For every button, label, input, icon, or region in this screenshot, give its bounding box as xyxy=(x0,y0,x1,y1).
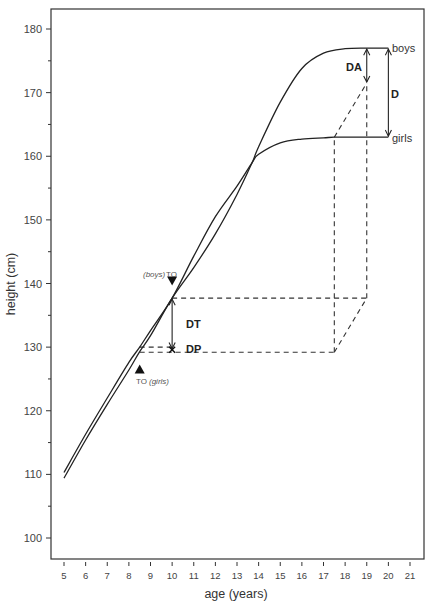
growth-chart: 100110120130140150160170180 567891011121… xyxy=(0,0,429,604)
y-tick-label: 110 xyxy=(24,468,42,480)
x-tick-label: 7 xyxy=(105,570,110,581)
x-tick-label: 19 xyxy=(361,570,372,581)
plot-frame xyxy=(51,9,424,559)
x-tick-label: 8 xyxy=(126,570,131,581)
y-tick-label: 150 xyxy=(24,214,42,226)
dashed-guide xyxy=(334,298,366,352)
girls-growth-curve xyxy=(64,137,388,472)
x-tick-label: 5 xyxy=(61,570,66,581)
x-tick-label: 16 xyxy=(297,570,308,581)
d-label: D xyxy=(391,88,399,100)
boys-to-label: TO xyxy=(166,270,177,279)
girls-takeoff-triangle-up-icon xyxy=(135,364,145,373)
y-tick-label: 100 xyxy=(24,532,42,544)
x-tick-label: 12 xyxy=(210,570,221,581)
girls-curve-label: girls xyxy=(392,132,413,144)
x-tick-label: 11 xyxy=(189,570,199,581)
y-tick-label: 170 xyxy=(24,87,42,99)
y-tick-label: 140 xyxy=(24,278,42,290)
y-tick-label: 180 xyxy=(24,23,42,35)
y-axis-label: height (cm) xyxy=(4,253,18,316)
boys-growth-curve xyxy=(64,48,388,478)
x-axis-label: age (years) xyxy=(204,587,267,601)
x-tick-label: 21 xyxy=(405,570,416,581)
girls-to-suffix: (girls) xyxy=(149,377,169,386)
dashed-guide-lines xyxy=(140,83,367,352)
x-tick-label: 9 xyxy=(148,570,153,581)
x-tick-label: 17 xyxy=(318,570,329,581)
x-tick-label: 20 xyxy=(383,570,394,581)
x-tick-label: 13 xyxy=(232,570,243,581)
growth-curves xyxy=(64,48,388,478)
boys-curve-label: boys xyxy=(392,42,416,54)
da-label: DA xyxy=(346,61,362,73)
y-tick-label: 130 xyxy=(24,341,42,353)
annotation-arrows xyxy=(172,49,388,349)
dp-label: DP xyxy=(186,343,201,355)
x-tick-label: 18 xyxy=(340,570,351,581)
x-tick-label: 10 xyxy=(167,570,178,581)
x-axis-ticks: 56789101112131415161718192021 xyxy=(61,562,415,581)
girls-to-label: TO xyxy=(136,377,147,386)
y-axis-ticks: 100110120130140150160170180 xyxy=(24,23,51,544)
y-tick-label: 120 xyxy=(24,405,42,417)
x-tick-label: 6 xyxy=(83,570,88,581)
boys-to-prefix: (boys) xyxy=(143,270,166,279)
x-tick-label: 14 xyxy=(253,570,264,581)
x-tick-label: 15 xyxy=(275,570,286,581)
y-tick-label: 160 xyxy=(24,150,42,162)
dashed-guide xyxy=(334,83,366,137)
dt-label: DT xyxy=(186,318,201,330)
